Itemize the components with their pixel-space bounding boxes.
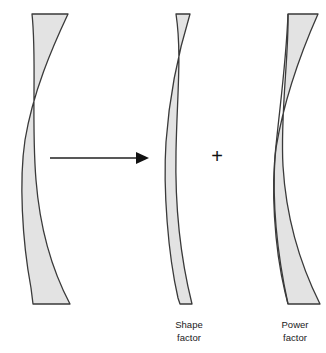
power-factor-label-line1: Power [282,319,309,330]
diagram-canvas: + Shape factor Power factor [0,0,326,353]
power-factor-label-line2: factor [283,332,307,343]
plus-sign: + [211,145,223,167]
shape-factor-label-line1: Shape [175,319,202,330]
shape-factor-label-line2: factor [177,332,201,343]
lens-decomposition-diagram: + Shape factor Power factor [0,0,326,353]
